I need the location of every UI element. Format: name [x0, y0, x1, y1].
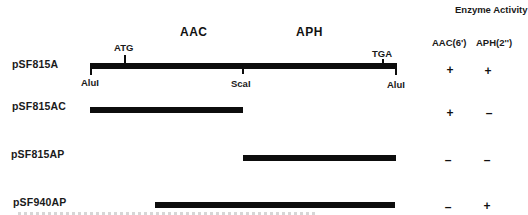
activity-aac-psf815a: +	[443, 63, 457, 77]
construct-label-psf815ac: pSF815AC	[12, 100, 66, 112]
construct-label-psf815ap: pSF815AP	[11, 148, 65, 160]
construct-bar-psf815ac	[90, 107, 243, 113]
alui-left-tick	[90, 63, 92, 75]
activity-aph-psf815a: +	[481, 64, 495, 78]
atg-site-label: ATG	[114, 42, 133, 53]
enzyme-activity-header: Enzyme Activity	[455, 4, 528, 15]
caption-cutoff-line	[18, 212, 318, 215]
scai-site-label: ScaI	[231, 78, 251, 89]
aac-activity-column-header: AAC(6')	[432, 37, 466, 48]
activity-aac-psf815ap: –	[441, 153, 455, 167]
construct-bar-psf940ap	[155, 202, 395, 208]
alui-left-label: AluI	[81, 77, 99, 88]
activity-aac-psf815ac: +	[443, 106, 457, 120]
aph-activity-column-header: APH(2'')	[476, 37, 512, 48]
alui-right-tick	[395, 63, 397, 75]
construct-label-psf940ap: pSF940AP	[13, 196, 67, 208]
activity-aph-psf940ap: +	[480, 199, 494, 213]
alui-right-label: AluI	[387, 79, 405, 90]
tga-site-label: TGA	[372, 48, 392, 59]
construct-bar-psf815ap	[243, 155, 396, 161]
scai-site-tick	[242, 68, 244, 74]
aac-gene-label: AAC	[180, 25, 208, 39]
activity-aph-psf815ac: –	[482, 106, 496, 120]
construct-label-psf815a: pSF815A	[12, 58, 58, 70]
aph-gene-label: APH	[296, 25, 323, 39]
activity-aph-psf815ap: –	[480, 153, 494, 167]
activity-aac-psf940ap: –	[441, 200, 455, 214]
